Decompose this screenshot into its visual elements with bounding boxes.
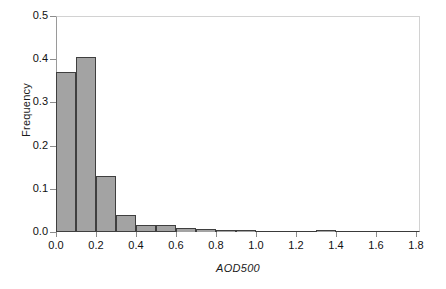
x-axis-tick [296,232,297,237]
x-axis-tick [176,232,177,237]
y-axis-tick [50,59,56,60]
x-axis-tick-label: 0.6 [156,240,196,251]
histogram-bar [56,72,76,232]
x-axis-tick-label: 1.4 [316,240,356,251]
x-axis-tick-label: 0.8 [196,240,236,251]
x-axis-tick [56,232,57,237]
x-axis-tick-label: 0.0 [36,240,76,251]
histogram-bar [96,176,116,232]
x-axis-tick-label: 1.8 [396,240,436,251]
y-axis-tick-label: 0.5 [8,10,48,21]
x-axis-title: AOD500 [56,262,420,274]
histogram-bar [156,225,176,232]
y-axis-tick-label: 0.4 [8,53,48,64]
histogram-bar [176,228,196,232]
y-axis-tick-label: 0.1 [8,183,48,194]
x-axis-tick-label: 0.4 [116,240,156,251]
y-axis-tick-label: 0.2 [8,140,48,151]
histogram-bar [196,229,216,232]
x-axis-tick [216,232,217,237]
histogram-bar [116,215,136,232]
histogram-bar [316,230,336,233]
x-axis-tick [336,232,337,237]
histogram-bar [216,230,236,233]
x-axis-tick [416,232,417,237]
y-axis-tick [50,189,56,190]
y-axis-tick-label: 0.3 [8,96,48,107]
x-axis-tick [376,232,377,237]
histogram-bar [236,230,256,233]
y-axis-tick [50,102,56,103]
histogram-chart: Frequency 0.00.10.20.30.40.5 0.00.20.40.… [0,0,446,289]
x-axis-tick [136,232,137,237]
x-axis-tick-label: 1.6 [356,240,396,251]
y-axis-tick [50,146,56,147]
histogram-bar [136,225,156,232]
x-axis-tick [96,232,97,237]
plot-area [56,16,420,232]
x-axis-tick-label: 1.2 [276,240,316,251]
x-axis-tick-label: 0.2 [76,240,116,251]
y-axis-tick [50,16,56,17]
histogram-bar [76,57,96,232]
y-axis-tick-label: 0.0 [8,226,48,237]
x-axis-tick-label: 1.0 [236,240,276,251]
x-axis-tick [256,232,257,237]
